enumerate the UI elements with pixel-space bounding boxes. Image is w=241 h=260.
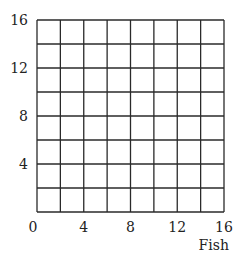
x-tick-label: 12 (168, 219, 186, 235)
grid-lines (37, 20, 224, 212)
y-tick-label: 12 (10, 60, 28, 76)
y-tick-label: 4 (19, 156, 28, 172)
y-tick-label: 8 (19, 108, 28, 124)
x-tick-label: 8 (126, 219, 135, 235)
x-tick-label: 16 (215, 219, 233, 235)
x-tick-label: 0 (29, 219, 38, 235)
x-tick-label: 4 (79, 219, 88, 235)
y-tick-label: 16 (10, 12, 28, 28)
blank-grid-chart: 481216 0481216 Fish (0, 0, 241, 260)
y-axis-ticks: 481216 (10, 12, 28, 172)
x-axis-label: Fish (199, 237, 229, 253)
x-axis-ticks: 0481216 (29, 219, 233, 235)
